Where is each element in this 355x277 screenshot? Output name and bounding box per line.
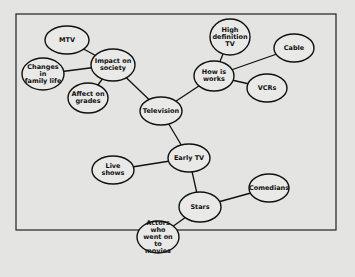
node-label-stars: Stars — [181, 204, 219, 211]
node-label-live: Live shows — [94, 163, 132, 177]
node-label-actors: Actors who went on to movies — [139, 220, 177, 255]
node-label-earlytv: Early TV — [170, 155, 208, 162]
node-label-cable: Cable — [276, 45, 312, 52]
edges-group — [43, 37, 294, 237]
node-label-impact: Impact on society — [93, 58, 133, 72]
concept-map-canvas: MTVImpact on societyChanges in family li… — [0, 0, 355, 277]
node-label-mtv: MTV — [47, 37, 87, 44]
node-label-television: Television — [142, 108, 180, 115]
node-label-vcrs: VCRs — [249, 85, 285, 92]
node-label-hdtv: High definition TV — [212, 27, 248, 48]
node-label-works: How is works — [196, 69, 232, 83]
node-label-comedians: Comedians — [251, 185, 287, 192]
node-label-grades: Affect on grades — [70, 91, 106, 105]
node-label-changes: Changes in family life — [24, 64, 62, 85]
